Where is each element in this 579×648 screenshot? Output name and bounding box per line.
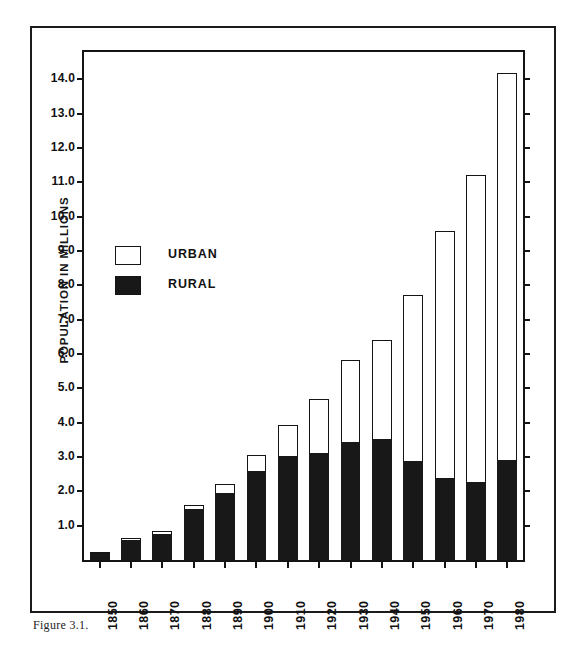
- y-axis-tick-mark-right: [523, 353, 530, 355]
- bar-segment-rural: [309, 453, 329, 560]
- x-axis-tick-mark: [350, 562, 352, 568]
- y-axis-tick-mark-right: [523, 113, 530, 115]
- x-axis-tick-label: 1900: [262, 601, 276, 630]
- y-axis-tick-mark-right: [523, 250, 530, 252]
- y-axis-tick-mark-right: [523, 284, 530, 286]
- x-axis-tick-label: 1940: [388, 601, 402, 630]
- y-axis-tick-mark: [77, 181, 84, 183]
- bar-segment-rural: [341, 442, 361, 560]
- y-axis-tick-mark-right: [523, 422, 530, 424]
- y-axis-tick-mark-right: [523, 78, 530, 80]
- x-axis-tick-label: 1980: [513, 601, 527, 630]
- x-axis-tick-mark: [99, 562, 101, 568]
- x-axis-tick-label: 1880: [200, 601, 214, 630]
- bar-group: [278, 425, 298, 560]
- y-axis-tick-mark: [77, 456, 84, 458]
- y-axis-tick-label: 4.0: [58, 415, 75, 429]
- bar-segment-rural: [466, 482, 486, 560]
- x-axis-tick-mark: [506, 562, 508, 568]
- y-axis-tick-label: 2.0: [58, 483, 75, 497]
- bar-segment-rural: [278, 456, 298, 560]
- x-axis-tick-label: 1930: [357, 601, 371, 630]
- legend-swatch-rural: [115, 276, 141, 295]
- figure-caption: Figure 3.1.: [33, 618, 89, 633]
- bar-segment-rural: [121, 540, 141, 560]
- y-axis-tick-label: 8.0: [58, 277, 75, 291]
- bar-group: [403, 295, 423, 560]
- x-axis-tick-label: 1860: [137, 601, 151, 630]
- x-axis-tick-label: 1970: [482, 601, 496, 630]
- y-axis-tick-label: 12.0: [51, 140, 75, 154]
- bar-segment-rural: [90, 553, 110, 560]
- x-axis-tick-mark: [161, 562, 163, 568]
- bar-group: [372, 340, 392, 560]
- bar-group: [152, 531, 172, 560]
- y-axis-tick-label: 7.0: [58, 312, 75, 326]
- x-axis-tick-label: 1920: [325, 601, 339, 630]
- bar-group: [341, 360, 361, 560]
- y-axis-tick-label: 11.0: [52, 174, 76, 188]
- y-axis-tick-label: 6.0: [58, 346, 75, 360]
- bar-group: [215, 484, 235, 560]
- bar-group: [466, 175, 486, 560]
- bar-group: [497, 73, 517, 560]
- bar-segment-rural: [247, 471, 267, 560]
- bar-group: [435, 231, 455, 560]
- bar-segment-rural: [497, 460, 517, 560]
- bar-group: [247, 455, 267, 560]
- x-axis-tick-label: 1950: [419, 601, 433, 630]
- bar-segment-rural: [215, 493, 235, 560]
- bar-segment-rural: [403, 461, 423, 560]
- x-axis-tick-label: 1850: [106, 601, 120, 630]
- y-axis-tick-mark-right: [523, 387, 530, 389]
- legend-swatch-urban: [115, 246, 141, 265]
- y-axis-tick-mark-right: [523, 490, 530, 492]
- population-growth-chart: POPULATION GROWTH IN TEXAS: 1850 - 1980 …: [30, 26, 556, 613]
- y-axis-tick-mark-right: [523, 147, 530, 149]
- bar-series-container: [84, 52, 523, 560]
- x-axis-tick-mark: [255, 562, 257, 568]
- y-axis-tick-mark-right: [523, 319, 530, 321]
- x-axis-tick-mark: [193, 562, 195, 568]
- x-axis-tick-mark: [412, 562, 414, 568]
- bar-segment-rural: [184, 509, 204, 560]
- bar-group: [184, 505, 204, 560]
- bar-group: [121, 538, 141, 560]
- bar-group: [90, 552, 110, 560]
- y-axis-tick-label: 5.0: [58, 380, 75, 394]
- y-axis-tick-mark-right: [523, 181, 530, 183]
- x-axis-tick-label: 1890: [231, 601, 245, 630]
- y-axis-tick-label: 10.0: [51, 209, 75, 223]
- y-axis-tick-mark: [77, 319, 84, 321]
- x-axis-tick-mark: [130, 562, 132, 568]
- y-axis-tick-mark-right: [523, 216, 530, 218]
- y-axis: 1.02.03.04.05.06.07.08.09.010.011.012.01…: [30, 52, 84, 560]
- y-axis-tick-mark: [77, 387, 84, 389]
- y-axis-tick-mark-right: [523, 456, 530, 458]
- x-axis-tick-label: 1960: [451, 601, 465, 630]
- y-axis-tick-label: 13.0: [51, 106, 75, 120]
- x-axis-tick-label: 1910: [294, 601, 308, 630]
- y-axis-right-ticks: [523, 52, 533, 560]
- y-axis-tick-mark: [77, 284, 84, 286]
- x-axis-tick-mark: [318, 562, 320, 568]
- bar-group: [309, 399, 329, 560]
- y-axis-tick-mark: [77, 216, 84, 218]
- y-axis-tick-label: 1.0: [58, 518, 75, 532]
- x-axis-tick-mark: [381, 562, 383, 568]
- y-axis-tick-mark: [77, 250, 84, 252]
- x-axis-tick-mark: [444, 562, 446, 568]
- x-axis-tick-label: 1870: [168, 601, 182, 630]
- bar-segment-rural: [152, 534, 172, 560]
- y-axis-tick-mark-right: [523, 525, 530, 527]
- y-axis-tick-mark: [77, 353, 84, 355]
- x-axis-tick-mark: [475, 562, 477, 568]
- y-axis-tick-mark: [77, 525, 84, 527]
- x-axis-tick-mark: [287, 562, 289, 568]
- legend-label: RURAL: [168, 277, 216, 291]
- y-axis-tick-label: 9.0: [58, 243, 75, 257]
- y-axis-tick-label: 3.0: [58, 449, 75, 463]
- y-axis-tick-mark: [77, 490, 84, 492]
- y-axis-tick-mark: [77, 113, 84, 115]
- x-axis-tick-mark: [224, 562, 226, 568]
